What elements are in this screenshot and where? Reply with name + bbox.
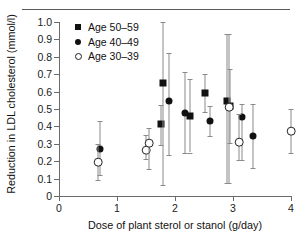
data-point-op: [225, 103, 234, 112]
error-bar-cap: [203, 112, 208, 113]
x-tick-label: 3: [230, 203, 236, 214]
legend: Age 50–59Age 40–49Age 30–39: [72, 20, 139, 64]
error-bar-cap: [188, 153, 193, 154]
error-bar-cap: [147, 169, 152, 170]
error-bar-cap: [236, 114, 241, 115]
y-tick-label: 0.2: [37, 156, 52, 167]
y-tick-mark: [54, 92, 59, 93]
legend-item-label: Age 40–49: [88, 36, 139, 48]
x-tick-label: 1: [114, 203, 120, 214]
y-tick-label: 0.5: [37, 104, 52, 115]
error-bar-cap: [96, 144, 101, 145]
y-tick-mark: [54, 109, 59, 110]
y-axis-label: Reduction in LDL cholesterol (mmol/l): [5, 14, 17, 194]
x-tick-mark: [175, 196, 176, 201]
x-tick-mark: [117, 196, 118, 201]
legend-item-label: Age 50–59: [88, 21, 139, 33]
x-tick-mark: [59, 196, 60, 201]
y-tick-label: 0.3: [37, 139, 52, 150]
error-bar-cap: [236, 160, 241, 161]
x-tick-mark: [233, 196, 234, 201]
legend-item: Age 50–59: [72, 20, 139, 35]
y-tick-mark: [54, 39, 59, 40]
error-bar-cap: [203, 74, 208, 75]
error-bar-cap: [207, 106, 212, 107]
y-tick-mark: [54, 57, 59, 58]
x-tick-mark: [291, 196, 292, 201]
legend-marker-icon: [72, 53, 84, 60]
error-bar-cap: [226, 34, 231, 35]
error-bar: [241, 104, 242, 160]
error-bar-cap: [289, 153, 294, 154]
y-tick-mark: [54, 22, 59, 23]
y-tick-label: 0.4: [37, 121, 52, 132]
legend-item: Age 40–49: [72, 35, 139, 50]
legend-item: Age 30–39: [72, 49, 139, 64]
y-tick-label: 0: [46, 191, 52, 202]
y-tick-label: 0.6: [37, 87, 52, 98]
y-tick-label: 0.7: [37, 69, 52, 80]
error-bar-cap: [289, 109, 294, 110]
y-tick-mark: [54, 179, 59, 180]
data-point-ci: [182, 109, 189, 116]
data-point-op: [94, 157, 103, 166]
data-point-op: [234, 138, 243, 147]
y-tick-mark: [54, 144, 59, 145]
error-bar-cap: [161, 22, 166, 23]
x-tick-label: 2: [172, 203, 178, 214]
error-bar-cap: [96, 180, 101, 181]
y-axis-label-container: Reduction in LDL cholesterol (mmol/l): [6, 0, 20, 244]
legend-item-label: Age 30–39: [88, 50, 139, 62]
data-point-sq: [202, 89, 209, 96]
error-bar: [149, 128, 150, 169]
error-bar-cap: [167, 155, 172, 156]
y-tick-label: 0.1: [37, 174, 52, 185]
y-tick-mark: [54, 74, 59, 75]
data-point-sq: [160, 80, 167, 87]
error-bar-cap: [167, 53, 172, 54]
data-point-ci: [250, 132, 257, 139]
error-bar-cap: [183, 72, 188, 73]
error-bar: [163, 22, 164, 185]
error-bar-cap: [97, 121, 102, 122]
error-bar-cap: [144, 135, 149, 136]
chart-figure: Reduction in LDL cholesterol (mmol/l) 00…: [0, 0, 299, 244]
error-bar-cap: [226, 183, 231, 184]
top-divider-rule: [22, 9, 290, 10]
legend-marker-icon: [72, 24, 84, 30]
y-tick-mark: [54, 126, 59, 127]
x-tick-label: 4: [288, 203, 294, 214]
error-bar-cap: [207, 136, 212, 137]
error-bar-cap: [147, 128, 152, 129]
data-point-op: [287, 126, 296, 135]
error-bar-cap: [183, 153, 188, 154]
error-bar: [169, 53, 170, 155]
error-bar-cap: [251, 104, 256, 105]
data-point-op: [145, 139, 154, 148]
error-bar-cap: [239, 104, 244, 105]
error-bar-cap: [161, 185, 166, 186]
y-tick-mark: [54, 161, 59, 162]
legend-marker-icon: [72, 39, 84, 45]
error-bar-cap: [144, 159, 149, 160]
error-bar-cap: [188, 79, 193, 80]
x-axis-label: Dose of plant sterol or stanol (g/day): [59, 219, 291, 231]
y-tick-label: 1.0: [37, 17, 52, 28]
y-tick-label: 0.9: [37, 34, 52, 45]
data-point-ci: [206, 117, 213, 124]
error-bar-cap: [251, 168, 256, 169]
y-tick-label: 0.8: [37, 52, 52, 63]
x-tick-label: 0: [56, 203, 62, 214]
data-point-ci: [166, 97, 173, 104]
